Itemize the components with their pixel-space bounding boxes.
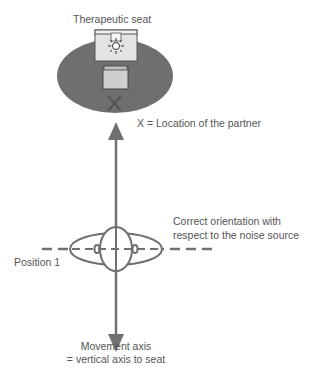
diagram-canvas — [0, 0, 318, 377]
seat-title: Therapeutic seat — [73, 13, 151, 26]
partner-legend: X = Location of the partner — [137, 117, 261, 130]
orientation-label-line2: respect to the noise source — [173, 229, 299, 242]
lamp-sun-icon — [95, 30, 137, 61]
head-top-view-icon — [70, 226, 162, 272]
seat-icon — [103, 66, 128, 89]
arrow-up-icon — [108, 122, 124, 140]
orientation-label-line1: Correct orientation with — [173, 215, 281, 228]
axis-label-line1: Movement axis — [66, 340, 166, 353]
axis-label-line2: = vertical axis to seat — [56, 353, 176, 366]
position-label: Position 1 — [14, 256, 60, 269]
